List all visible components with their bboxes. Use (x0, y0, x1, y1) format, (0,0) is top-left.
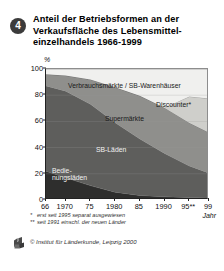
x-tick-mark-1 (65, 198, 66, 201)
area-label-supermaerkte: Supermärkte (105, 115, 144, 122)
y-axis-unit: % (44, 56, 50, 63)
x-tick-mark-3 (114, 198, 115, 201)
source-text: © Institut für Länderkunde, Leipzig 2000 (30, 239, 137, 245)
chart-plot-area: Bedie- nungsläden SB-Läden Supermärkte D… (45, 68, 208, 199)
footnote-2: **seit 1991 einschl. der neuen Länder (30, 219, 210, 226)
area-label-sb-laeden: SB-Läden (96, 146, 126, 153)
x-tick-label-1980: 1980 (106, 202, 122, 211)
y-tick-label-40: 40 (23, 142, 43, 151)
source-line: © Institut für Länderkunde, Leipzig 2000 (12, 236, 217, 252)
area-label-bedienungslaeden: Bedie- nungsläden (52, 167, 87, 182)
footnote-1-marker: * (30, 212, 37, 219)
x-tick-mark-4 (139, 198, 140, 201)
ifl-logo-icon (12, 236, 26, 250)
area-label-line-1: Bedie- (52, 167, 87, 174)
area-label-discounter: Discounter* (156, 101, 191, 108)
y-tick-label-100: 100 (23, 64, 43, 73)
y-tick-label-80: 80 (23, 90, 43, 99)
x-tick-label-75: 75 (85, 202, 93, 211)
x-axis-label: Jahr (202, 212, 216, 219)
x-tick-mark-5 (164, 198, 165, 201)
x-axis: 66197075198085199095**99 (0, 200, 224, 212)
x-tick-label-85: 85 (135, 202, 143, 211)
y-tick-label-20: 20 (23, 168, 43, 177)
area-label-verbrauchsmaerkte: Verbrauchsmärkte / SB-Warenhäuser (68, 82, 181, 89)
y-axis: 020406080100 (20, 68, 43, 199)
footnote-2-marker: ** (30, 219, 37, 226)
title-line-1: Anteil der Betriebsformen an der (33, 14, 213, 26)
x-tick-mark-2 (89, 198, 90, 201)
title-line-3: einzelhandels 1966-1999 (33, 37, 213, 49)
figure-header: 4 Anteil der Betriebsformen an der Verka… (0, 12, 224, 56)
title-line-2: Verkaufsfläche des Lebensmittel- (33, 26, 213, 38)
x-tick-label-66: 66 (41, 202, 49, 211)
footnote-1: *erst seit 1995 separat ausgewiesen (30, 212, 210, 219)
x-tick-label-95ss: 95** (181, 202, 195, 211)
y-tick-label-60: 60 (23, 116, 43, 125)
figure-root: 4 Anteil der Betriebsformen an der Verka… (0, 0, 224, 271)
x-tick-mark-6 (188, 198, 189, 201)
figure-title: Anteil der Betriebsformen an der Verkauf… (33, 14, 213, 49)
figure-number-badge: 4 (10, 18, 26, 34)
footnote-1-text: erst seit 1995 separat ausgewiesen (37, 212, 125, 218)
footnote-2-text: seit 1991 einschl. der neuen Länder (37, 219, 126, 225)
x-tick-mark-0 (45, 198, 46, 201)
x-tick-label-99: 99 (204, 202, 212, 211)
x-tick-label-1990: 1990 (155, 202, 171, 211)
area-label-line-2: nungsläden (52, 174, 87, 181)
x-tick-label-1970: 1970 (57, 202, 73, 211)
footnotes: *erst seit 1995 separat ausgewiesen **se… (30, 212, 210, 225)
x-tick-mark-7 (208, 198, 209, 201)
